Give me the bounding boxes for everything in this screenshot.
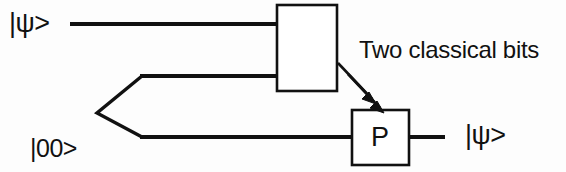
classical-bit-arrow-1-head xyxy=(362,92,376,104)
output-state-label: |ψ> xyxy=(465,122,506,149)
correction-gate-label: P xyxy=(371,124,389,151)
bell-pair-fork xyxy=(97,76,142,137)
bell-pair-ket-00: |00> xyxy=(30,136,77,162)
classical-channel-label: Two classical bits xyxy=(359,38,539,62)
bell-pair-label: |00> + |11> xyxy=(30,85,77,172)
teleportation-diagram: |ψ> |00> + |11> Two classical bits P |ψ> xyxy=(0,0,566,172)
measurement-box xyxy=(277,5,337,91)
input-state-label: |ψ> xyxy=(9,10,50,37)
